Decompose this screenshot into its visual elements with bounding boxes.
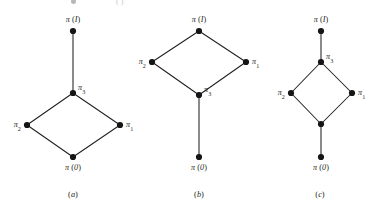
node-label-a-pi2: π2 — [14, 121, 21, 129]
caption-letter: b — [197, 190, 201, 199]
pi-argument: 0 — [200, 163, 204, 172]
lattice-edge — [321, 93, 352, 124]
lattice-node-b-pi3 — [196, 92, 202, 98]
node-label-c-pi1: π1 — [358, 89, 365, 97]
pi-subscript: 3 — [82, 89, 85, 95]
pi-subscript: 2 — [18, 126, 21, 132]
pi-glyph: π — [314, 15, 318, 24]
pi-subscript: 3 — [208, 91, 211, 97]
node-label-a-pi1: π1 — [126, 121, 133, 129]
lattice-node-c-meet — [318, 121, 324, 127]
lattice-node-b-top — [196, 28, 202, 34]
node-label-b-bottom: π (0) — [191, 164, 207, 172]
pi-subscript: 1 — [362, 94, 365, 100]
node-label-c-pi2: π2 — [278, 89, 285, 97]
pi-argument: 0 — [74, 163, 78, 172]
lattice-node-c-bottom — [318, 154, 324, 160]
pi-glyph: π — [66, 15, 70, 24]
node-label-b-pi1: π1 — [252, 58, 259, 66]
panel-caption-c: (c) — [315, 190, 324, 199]
lattice-edge — [291, 93, 321, 124]
lattice-node-a-pi3 — [70, 90, 76, 96]
lattice-node-c-pi1 — [349, 90, 355, 96]
node-label-a-bottom: π (0) — [65, 164, 81, 172]
lattice-edge — [321, 62, 352, 93]
panel-caption-a: (a) — [68, 190, 78, 199]
pi-argument: I — [75, 15, 78, 24]
lattice-edge — [73, 125, 120, 157]
pi-glyph: π — [313, 163, 317, 172]
lattice-node-a-pi2 — [24, 122, 30, 128]
lattice-node-a-pi1 — [117, 122, 123, 128]
lattice-edge — [27, 93, 73, 125]
node-label-b-top: π (I) — [192, 16, 207, 24]
lattice-edges-and-nodes — [0, 0, 375, 211]
lattice-node-b-bottom — [196, 154, 202, 160]
nodes-group — [24, 28, 355, 160]
pi-subscript: 1 — [130, 126, 133, 132]
lattice-edge — [152, 31, 199, 62]
lattice-node-a-top — [70, 28, 76, 34]
lattice-edge — [291, 62, 321, 93]
node-label-a-pi3: π3 — [78, 84, 85, 92]
lattice-node-c-top — [318, 28, 324, 34]
figure-canvas: ( ) π (I)π3π2π1π (0)π (I)π2π1π3π (0)π (I… — [0, 0, 375, 211]
node-label-b-pi3: π3 — [204, 86, 211, 94]
node-label-c-pi3: π3 — [326, 53, 333, 61]
node-label-c-top: π (I) — [314, 16, 329, 24]
caption-letter: c — [318, 190, 322, 199]
lattice-edge — [73, 93, 120, 125]
pi-glyph: π — [65, 163, 69, 172]
pi-argument: I — [323, 15, 326, 24]
lattice-edge — [152, 62, 199, 95]
lattice-edge — [27, 125, 73, 157]
pi-argument: 0 — [322, 163, 326, 172]
pi-glyph: π — [191, 163, 195, 172]
pi-subscript: 3 — [330, 58, 333, 64]
caption-letter: a — [71, 190, 75, 199]
pi-glyph: π — [192, 15, 196, 24]
pi-argument: I — [201, 15, 204, 24]
node-label-c-bottom: π (0) — [313, 164, 329, 172]
pi-subscript: 1 — [256, 63, 259, 69]
lattice-node-b-pi2 — [149, 59, 155, 65]
lattice-node-b-pi1 — [243, 59, 249, 65]
node-label-b-pi2: π2 — [139, 58, 146, 66]
lattice-node-c-pi2 — [288, 90, 294, 96]
pi-subscript: 2 — [282, 94, 285, 100]
pi-subscript: 2 — [143, 63, 146, 69]
node-label-a-top: π (I) — [66, 16, 81, 24]
panel-caption-b: (b) — [194, 190, 204, 199]
lattice-edge — [199, 31, 246, 62]
lattice-node-a-bottom — [70, 154, 76, 160]
lattice-node-c-pi3 — [318, 59, 324, 65]
